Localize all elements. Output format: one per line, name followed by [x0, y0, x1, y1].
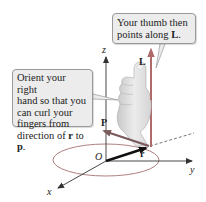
x-axis-label: x: [47, 186, 51, 197]
x-axis: [58, 161, 106, 188]
vector-L-label: L: [139, 56, 146, 67]
callout-left-line5-suffix: .: [23, 141, 26, 152]
callout-left-line3: can curl your: [17, 107, 88, 119]
callout-top-pointer: [156, 44, 165, 68]
callout-thumb-direction: Your thumb then points along L.: [112, 13, 196, 44]
z-axis-label: z: [102, 44, 106, 55]
right-hand-icon: [117, 62, 151, 146]
r-extension-dashed: [150, 133, 194, 146]
callout-orient-hand: Orient your right hand so that you can c…: [12, 69, 93, 127]
vector-r-label: r: [140, 148, 144, 159]
callout-left-line1: Orient your right: [17, 72, 88, 95]
callout-left-line5-prefix: direction of: [17, 130, 68, 141]
callout-top-line1: Your thumb then: [117, 17, 188, 28]
callout-top-line2-prefix: points along: [117, 29, 171, 40]
vector-p-label: P: [101, 117, 107, 128]
callout-top-line2-suffix: .: [178, 29, 181, 40]
origin-label: O: [95, 151, 102, 162]
callout-left-line5-mid: to: [73, 130, 84, 141]
callout-left-pointer: [93, 94, 118, 100]
callout-left-line2: hand so that you: [17, 95, 88, 107]
y-axis-label: y: [190, 164, 194, 175]
callout-left-line4: fingers from: [17, 118, 88, 130]
